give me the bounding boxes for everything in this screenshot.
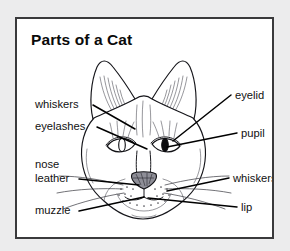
label-pupil: pupil	[241, 127, 265, 139]
page-title: Parts of a Cat	[31, 31, 132, 48]
label-whiskers-left: whiskers	[34, 98, 79, 110]
label-eyelashes: eyelashes	[35, 120, 86, 132]
label-eyelid: eyelid	[235, 89, 264, 101]
diagram-frame: Parts of a Cat	[15, 17, 274, 239]
label-nose-leather-line1: nose	[35, 158, 59, 170]
pupil-left-icon	[119, 138, 126, 151]
label-whiskers-right: whiskers	[232, 172, 272, 184]
label-nose-leather-line2: leather	[35, 172, 69, 184]
label-lip: lip	[241, 201, 252, 213]
pupil-right-icon	[162, 138, 169, 152]
cat-anatomy-diagram: Parts of a Cat	[17, 19, 272, 237]
label-muzzle: muzzle	[35, 204, 70, 216]
